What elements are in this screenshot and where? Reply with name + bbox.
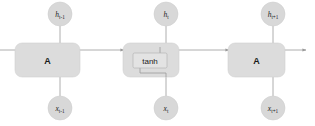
input-node-x-prev[interactable]: xt-1 (48, 96, 72, 120)
output-node-h-t[interactable]: ht (154, 2, 178, 26)
cell-right[interactable]: A (228, 43, 285, 77)
output-node-h-next[interactable]: ht+1 (261, 2, 285, 26)
rnn-diagram-canvas: A A tanh ht-1 (0, 0, 315, 126)
input-node-x-next-sub: t+1 (271, 108, 278, 114)
cell-right-label: A (253, 56, 260, 66)
input-node-x-prev-sub: t-1 (59, 108, 65, 114)
tanh-label: tanh (142, 57, 158, 66)
input-node-x-t[interactable]: xt (154, 96, 178, 120)
output-node-h-prev-sub: t-1 (59, 14, 65, 20)
cell-left-label: A (44, 56, 51, 66)
tanh-node[interactable]: tanh (133, 53, 167, 68)
cell-left[interactable]: A (15, 43, 80, 77)
output-node-h-prev[interactable]: ht-1 (48, 2, 72, 26)
rnn-diagram: A A tanh ht-1 (0, 0, 315, 126)
output-node-h-next-sub: t+1 (271, 14, 278, 20)
input-node-x-next[interactable]: xt+1 (261, 96, 285, 120)
